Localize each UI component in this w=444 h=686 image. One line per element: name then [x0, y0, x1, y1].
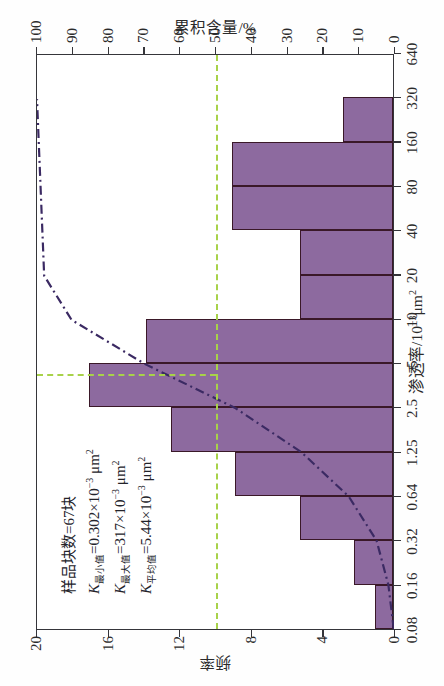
histogram-bar	[171, 407, 393, 451]
histogram-bar	[354, 540, 393, 584]
stat-sample-count-value: 67	[61, 511, 77, 526]
stat-k-mean-subscript: 平均值	[147, 554, 157, 584]
axis-tick	[394, 363, 401, 364]
y2-axis-tick-label: 100	[28, 21, 45, 44]
axis-tick	[394, 186, 401, 187]
axis-tick	[394, 496, 401, 497]
reference-line-50pct	[216, 55, 218, 629]
statistics-annotation: 样品块数=67块 K最小值=0.302×10−3 μm2 K最大值=317×10…	[58, 449, 160, 594]
histogram-bar	[300, 496, 393, 540]
axis-tick	[394, 230, 401, 231]
y2-axis-tick-label: 20	[314, 28, 331, 43]
x-axis-tick-label: 20	[404, 268, 421, 283]
y-axis-tick-label: 8	[242, 636, 259, 668]
stat-sample-count-label: 样品块数	[61, 534, 77, 594]
y2-axis-tick-label: 10	[350, 28, 367, 43]
histogram-bar	[232, 186, 393, 230]
stat-k-max-unit: μm	[112, 465, 128, 485]
stat-k-max-value: 317×10	[112, 500, 128, 546]
stat-k-min-subscript: 最小值	[95, 554, 105, 584]
rotated-figure-container: 0.080.160.320.641.252.551020408016032064…	[0, 0, 444, 686]
x-axis-tick-label: 640	[404, 43, 421, 66]
stat-k-max-unit-exponent: 2	[110, 460, 121, 465]
histogram-bar	[232, 142, 393, 186]
stat-sample-count: 样品块数=67块	[58, 449, 82, 594]
axis-tick	[108, 47, 109, 54]
histogram-bar	[89, 363, 393, 407]
x-axis-title-unit-exponent: 2	[407, 290, 418, 295]
axis-tick	[394, 97, 401, 98]
stat-k-min-value: 0.302×10	[86, 488, 102, 545]
x-axis-title-main: 渗透率/10	[408, 326, 425, 394]
y-axis-title: 频率	[199, 653, 231, 675]
stat-k-max: K最大值=317×10−3 μm2	[108, 449, 134, 594]
axis-tick	[394, 319, 401, 320]
axis-tick	[143, 47, 144, 54]
stat-k-mean-unit: μm	[138, 462, 154, 482]
axis-tick	[394, 141, 401, 142]
y2-axis-tick-label: 30	[278, 28, 295, 43]
x-axis-tick-label: 80	[404, 179, 421, 194]
y2-axis-tick-label: 90	[63, 28, 80, 43]
y2-axis-tick-label: 80	[99, 28, 116, 43]
stat-k-max-symbol: K	[112, 584, 128, 594]
histogram-bar	[375, 585, 393, 629]
stat-k-mean-symbol: K	[138, 584, 154, 594]
axis-tick	[287, 47, 288, 54]
stat-sample-count-unit: 块	[61, 496, 77, 511]
axis-tick	[394, 274, 401, 275]
stat-k-min-unit-exponent: 2	[84, 449, 95, 454]
axis-tick	[394, 585, 401, 586]
x-axis-tick-label: 0.64	[404, 484, 421, 511]
stat-k-mean-value: 5.44×10	[138, 496, 154, 546]
x-axis-tick-label: 2.5	[404, 399, 421, 418]
axis-tick	[179, 47, 180, 54]
y-axis-tick-label: 20	[28, 636, 45, 668]
stat-k-mean-eq: =	[138, 546, 154, 554]
y2-axis-title: 累积含量/%	[174, 15, 255, 37]
stat-k-min-unit: μm	[86, 454, 102, 474]
x-axis-title-unit: μm	[408, 295, 425, 315]
stat-k-mean: K平均值=5.44×10−3 μm2	[134, 449, 160, 594]
x-axis-tick-label: 40	[404, 224, 421, 239]
stat-sample-count-eq: =	[61, 526, 77, 534]
histogram-bar	[300, 230, 393, 274]
x-axis-tick-label: 320	[404, 87, 421, 110]
stat-k-max-eq: =	[112, 546, 128, 554]
x-axis-tick-label: 160	[404, 131, 421, 154]
stat-k-max-exponent: −3	[110, 489, 121, 500]
x-axis-tick-label: 0.08	[404, 617, 421, 644]
axis-tick	[394, 407, 401, 408]
y2-axis-tick-label: 0	[386, 36, 403, 44]
axis-tick	[394, 540, 401, 541]
axis-tick	[36, 47, 37, 54]
histogram-bar	[146, 319, 393, 363]
histogram-bar	[235, 452, 393, 496]
axis-tick	[358, 47, 359, 54]
x-axis-tick-label: 1.25	[404, 439, 421, 466]
x-axis-title-exponent: −3	[407, 315, 418, 326]
histogram-figure: 0.080.160.320.641.252.551020408016032064…	[0, 0, 444, 686]
stat-k-mean-exponent: −3	[136, 485, 147, 496]
y-axis-tick-label: 16	[99, 636, 116, 668]
axis-tick	[322, 47, 323, 54]
x-axis-tick-label: 0.16	[404, 572, 421, 599]
x-axis-title: 渗透率/10−3μm2	[404, 290, 426, 394]
figure-page: 0.080.160.320.641.252.551020408016032064…	[0, 0, 444, 686]
stat-k-min-symbol: K	[86, 584, 102, 594]
y-axis-tick-label: 0	[386, 636, 403, 668]
y-axis-tick-label: 4	[314, 636, 331, 668]
axis-tick	[394, 452, 401, 453]
histogram-bar	[343, 97, 393, 141]
stat-k-min-exponent: −3	[84, 478, 95, 489]
axis-tick	[215, 47, 216, 54]
y-axis-tick-label: 12	[171, 636, 188, 668]
reference-line-vertical	[37, 374, 216, 376]
histogram-bar	[300, 275, 393, 319]
axis-tick	[394, 47, 395, 54]
x-axis-tick-label: 0.32	[404, 528, 421, 555]
stat-k-min-eq: =	[86, 546, 102, 554]
stat-k-mean-unit-exponent: 2	[136, 457, 147, 462]
stat-k-max-subscript: 最大值	[121, 554, 131, 584]
axis-tick	[251, 47, 252, 54]
